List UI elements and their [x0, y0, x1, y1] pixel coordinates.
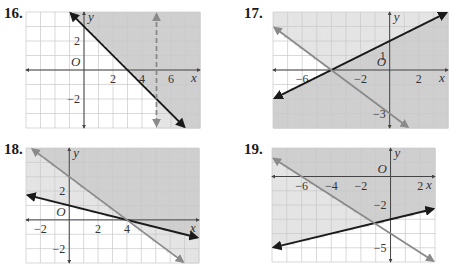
x-tick-label: 2	[95, 222, 101, 236]
y-axis-label: y	[86, 9, 94, 24]
graph-19: xyO−6−4−22−2−5	[272, 145, 436, 262]
y-tick-label: −2	[52, 242, 65, 256]
x-tick-label: 2	[110, 72, 116, 86]
x-tick-label: 6	[168, 72, 174, 86]
y-tick-label: 2	[59, 184, 65, 198]
origin-label: O	[71, 54, 81, 69]
x-tick-label: 2	[416, 72, 422, 86]
origin-label: O	[378, 161, 388, 176]
y-axis-label: y	[392, 9, 400, 24]
x-axis-label: x	[190, 70, 197, 85]
y-axis-label: y	[71, 145, 79, 160]
x-axis-label: x	[189, 220, 196, 235]
x-tick-label: 2	[417, 179, 423, 193]
graph-17: xyO−6−221−3	[273, 9, 449, 129]
y-tick-label: 1	[380, 49, 386, 63]
x-tick-label: −4	[325, 179, 338, 193]
x-tick-label: −2	[354, 72, 367, 86]
graphs-canvas: xyO2462−2 xyO−6−221−3 xyO−2242−2 xyO−6−4…	[0, 0, 455, 267]
y-tick-label: −5	[374, 241, 387, 255]
graph-18: xyO−2242−2	[26, 145, 200, 264]
x-tick-label: −6	[295, 179, 308, 193]
x-tick-label: −2	[355, 179, 368, 193]
graph-16: xyO2462−2	[26, 9, 201, 129]
x-axis-label: x	[438, 70, 445, 85]
x-tick-label: −2	[34, 222, 47, 236]
y-tick-label: −2	[374, 198, 387, 212]
y-tick-label: −2	[67, 92, 80, 106]
y-tick-label: 2	[74, 34, 80, 48]
origin-label: O	[56, 204, 66, 219]
x-tick-label: 4	[124, 222, 130, 236]
y-axis-label: y	[393, 145, 401, 160]
x-axis-label: x	[425, 177, 432, 192]
